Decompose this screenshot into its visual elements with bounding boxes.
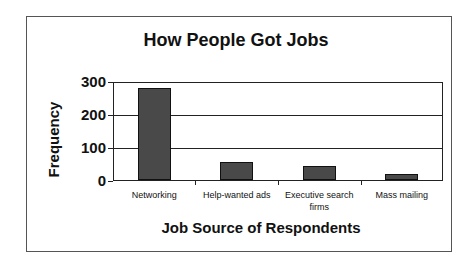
x-tick-mark xyxy=(195,181,196,185)
y-tick-0: 0 xyxy=(58,172,106,189)
x-category-label: Mass mailing xyxy=(361,189,443,201)
x-category-label: Help-wanted ads xyxy=(196,189,278,201)
x-tick-mark xyxy=(361,181,362,185)
bar-executive-search-firms xyxy=(303,166,336,180)
x-axis-label: Job Source of Respondents xyxy=(0,219,472,236)
chart-title: How People Got Jobs xyxy=(0,30,472,51)
y-tick-100: 100 xyxy=(58,139,106,156)
x-category-label: Networking xyxy=(113,189,195,201)
plot-area xyxy=(113,82,443,181)
y-tick-mark xyxy=(108,181,113,182)
y-tick-300: 300 xyxy=(58,73,106,90)
x-category-label: Executive search firms xyxy=(278,189,360,213)
bar-networking xyxy=(138,88,171,180)
x-tick-mark xyxy=(278,181,279,185)
y-tick-200: 200 xyxy=(58,106,106,123)
bar-help-wanted-ads xyxy=(220,162,253,180)
bar-mass-mailing xyxy=(385,174,418,180)
